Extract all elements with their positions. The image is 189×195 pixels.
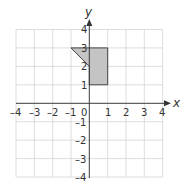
y-axis-label: y (84, 5, 93, 19)
coordinate-grid: x y –4 –3 –2 –1 0 1 2 3 4 4 3 2 1 –1 –2 … (0, 0, 189, 195)
x-tick: –4 (10, 107, 21, 118)
y-tick: –3 (75, 154, 86, 165)
x-tick: 1 (105, 107, 111, 118)
x-axis-label: x (172, 96, 181, 110)
y-tick: –1 (75, 117, 86, 128)
y-tick: 3 (81, 43, 87, 54)
x-tick: 3 (141, 107, 147, 118)
y-tick: 2 (81, 61, 87, 72)
x-tick: 2 (123, 107, 129, 118)
x-tick: –2 (47, 107, 58, 118)
x-axis-arrow-icon (164, 100, 171, 106)
y-tick: –2 (75, 135, 86, 146)
x-tick: 4 (159, 107, 165, 118)
y-tick: 4 (81, 24, 87, 35)
y-tick: 1 (81, 80, 87, 91)
y-tick: –4 (75, 172, 86, 183)
x-tick: –3 (29, 107, 40, 118)
x-tick-labels: –4 –3 –2 –1 0 1 2 3 4 (10, 107, 165, 118)
